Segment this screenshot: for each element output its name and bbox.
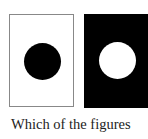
figure-black-with-white-circle [84, 14, 148, 108]
question-caption: Which of the figures [11, 116, 131, 133]
white-circle [99, 42, 136, 79]
black-circle [24, 43, 61, 80]
figure-white-with-black-circle [9, 14, 74, 107]
